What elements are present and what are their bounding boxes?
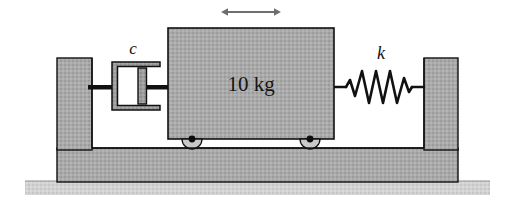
- spring-assembly: [334, 71, 424, 103]
- damper-label: c: [129, 39, 137, 58]
- mechanical-system-diagram: c k 10 kg: [0, 0, 505, 203]
- spring-label: k: [377, 43, 386, 63]
- right-wall-support: [424, 58, 458, 150]
- dashpot-piston-plate: [138, 68, 147, 104]
- left-wall-support: [57, 58, 92, 150]
- mass-label: 10 kg: [227, 72, 275, 96]
- damper-left-rod: [88, 85, 114, 90]
- damper-assembly: [88, 62, 170, 110]
- base-slab: [57, 148, 458, 182]
- spring-coil: [346, 71, 412, 103]
- mass-block: 10 kg: [168, 28, 334, 139]
- diagram-canvas: c k 10 kg: [0, 0, 505, 203]
- ground-strip: [25, 181, 490, 195]
- damper-right-rod: [146, 85, 170, 90]
